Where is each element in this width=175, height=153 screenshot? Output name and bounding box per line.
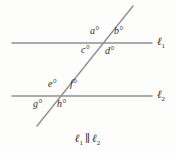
line-1-subscript: 1 bbox=[162, 42, 166, 50]
angle-label-b: b° bbox=[114, 26, 123, 36]
angle-label-e: e° bbox=[48, 79, 56, 89]
angle-label-d: d° bbox=[105, 46, 114, 56]
angle-label-f: f° bbox=[70, 79, 77, 89]
transversal-line bbox=[37, 6, 133, 126]
diagram-canvas bbox=[0, 0, 175, 153]
geometry-diagram: a° b° c° d° e° f° g° h° ℓ1 ℓ2 ℓ1∥ℓ2 bbox=[0, 0, 175, 153]
angle-label-c: c° bbox=[81, 45, 89, 55]
line-2-label: ℓ2 bbox=[157, 89, 165, 103]
angle-label-g: g° bbox=[33, 99, 42, 109]
line-2-subscript: 2 bbox=[162, 95, 166, 103]
caption-line-2-subscript: 2 bbox=[97, 139, 101, 147]
caption-parallel-statement: ℓ1∥ℓ2 bbox=[0, 132, 175, 147]
angle-label-a: a° bbox=[90, 26, 99, 36]
line-1-label: ℓ1 bbox=[157, 36, 165, 50]
parallel-symbol: ∥ bbox=[83, 132, 92, 144]
angle-label-h: h° bbox=[57, 99, 66, 109]
